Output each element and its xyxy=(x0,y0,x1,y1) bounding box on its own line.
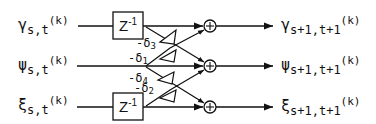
svg-text:ψs,t(k): ψs,t(k) xyxy=(18,54,69,77)
delay-box-bottom: Z-1 xyxy=(113,93,143,120)
delay-box-top: Z-1 xyxy=(113,12,143,39)
coef-label-delta1: -δ1 xyxy=(128,51,148,66)
svg-text:ξs,t(k): ξs,t(k) xyxy=(18,94,69,117)
adder-gamma xyxy=(204,20,216,32)
svg-text:γs+1,t+1(k): γs+1,t+1(k) xyxy=(281,14,360,37)
input-label-psi: ψs,t(k) xyxy=(18,54,69,77)
output-label-psi: ψs+1,t+1(k) xyxy=(281,54,360,77)
gain-triangle-delta4 xyxy=(158,72,174,84)
input-label-xi: ξs,t(k) xyxy=(18,94,69,117)
output-label-xi: ξs+1,t+1(k) xyxy=(281,95,360,118)
cross-xi-to-psi xyxy=(146,70,204,106)
coef-label-delta3: -δ3 xyxy=(136,36,156,51)
output-label-gamma: γs+1,t+1(k) xyxy=(281,14,360,37)
adder-psi xyxy=(204,60,216,72)
adder-xi xyxy=(204,101,216,113)
coef-label-delta2: -δ2 xyxy=(134,81,154,96)
svg-text:γs,t(k): γs,t(k) xyxy=(18,14,69,37)
gain-triangle-delta1 xyxy=(160,50,176,62)
input-label-gamma: γs,t(k) xyxy=(18,14,69,37)
lattice-diagram: γs,t(k) ψs,t(k) ξs,t(k) Z-1 Z-1 -δ3 -δ1 … xyxy=(0,0,376,124)
svg-text:ξs+1,t+1(k): ξs+1,t+1(k) xyxy=(281,95,360,118)
svg-text:ψs+1,t+1(k): ψs+1,t+1(k) xyxy=(281,54,360,77)
